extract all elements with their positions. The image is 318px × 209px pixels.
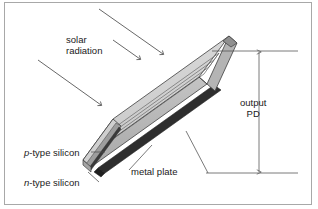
p-type-suffix: -type silicon: [29, 147, 79, 158]
solar-radiation-arrows: [38, 9, 163, 105]
radiation-arrow-1: [99, 9, 163, 54]
radiation-arrow-2: [113, 40, 140, 59]
panel-body: [83, 36, 237, 172]
output-pd-line2: PD: [247, 108, 260, 119]
output-pd-label: output PD: [240, 97, 266, 119]
radiation-arrow-3: [38, 60, 101, 105]
solar-radiation-label: solar radiation: [66, 34, 102, 56]
output-pd-line1: output: [240, 97, 266, 108]
n-type-silicon-label: n-type silicon: [24, 177, 79, 188]
solar-radiation-line2: radiation: [66, 45, 102, 56]
p-type-silicon-label: p-type silicon: [24, 147, 79, 158]
dimension-leader-bottom-diag: [186, 131, 208, 173]
solar-cell-figure: solar radiation output PD p-type silicon…: [0, 0, 318, 209]
metal-plate-label: metal plate: [131, 166, 177, 177]
n-type-suffix: -type silicon: [29, 177, 79, 188]
solar-radiation-line1: solar: [66, 34, 87, 45]
